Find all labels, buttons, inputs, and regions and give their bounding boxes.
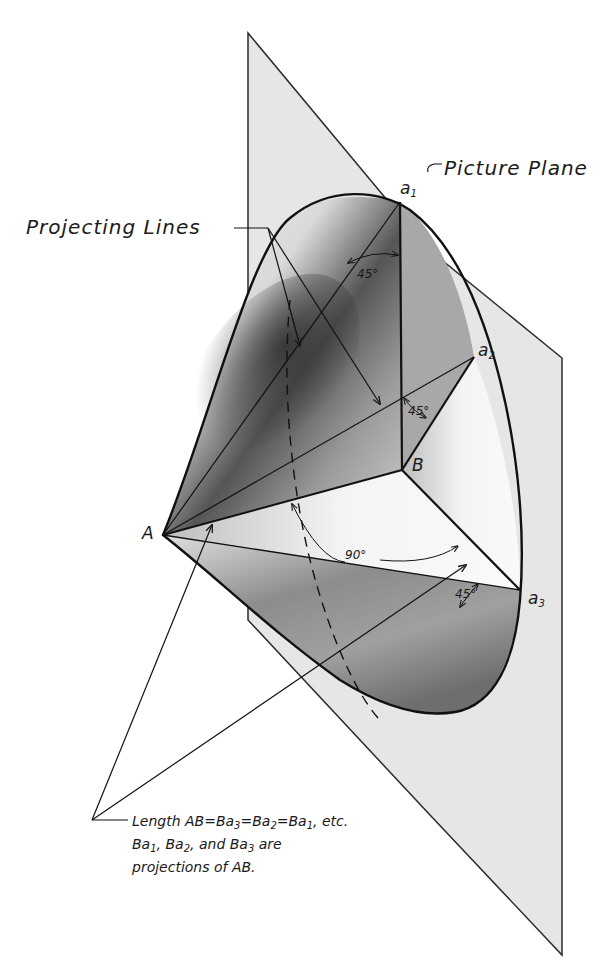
point-A-label: A xyxy=(142,525,154,542)
note-line-2: Ba1, Ba2, and Ba3 are xyxy=(132,835,348,858)
cone-projection-diagram: Picture Plane Projecting Lines A B a1 a2… xyxy=(0,0,611,978)
projecting-lines-label: Projecting Lines xyxy=(26,217,201,237)
point-a2-label: a2 xyxy=(478,342,495,361)
angle-a2-label: 45° xyxy=(408,405,429,417)
point-a1-label: a1 xyxy=(400,180,417,199)
length-note: Length AB=Ba3=Ba2=Ba1, etc. Ba1, Ba2, an… xyxy=(132,812,348,877)
angle-a3-label: 45° xyxy=(455,588,476,600)
picture-plane-label: Picture Plane xyxy=(444,158,588,178)
note-line-1: Length AB=Ba3=Ba2=Ba1, etc. xyxy=(132,812,348,835)
angle-a1-label: 45° xyxy=(357,268,378,280)
angle-90-label: 90° xyxy=(345,549,366,561)
point-a3-label: a3 xyxy=(528,590,545,609)
point-B-label: B xyxy=(412,457,424,474)
note-line-3: projections of AB. xyxy=(132,858,348,877)
